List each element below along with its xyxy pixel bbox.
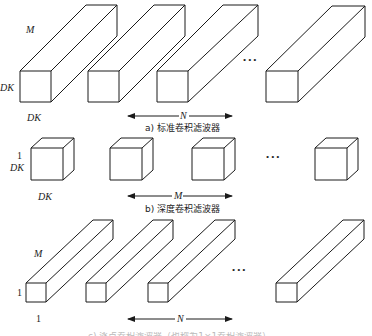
panel-a-width-label: DK [27, 113, 41, 123]
panel-a-height-label: DK [0, 83, 14, 93]
panel-b-filter-1 [31, 138, 74, 180]
panel-a-filter-3 [157, 5, 258, 102]
panel-c-height-label: 1 [17, 288, 22, 298]
panel-b-ellipsis: ••• [266, 153, 281, 162]
panel-b-filter-last [315, 138, 358, 180]
panel-c-caption: c) 逐点卷积滤波器（也称为1×1卷积滤波器） [88, 332, 271, 336]
panel-b-count-label: M [174, 191, 182, 201]
panel-c-count-label: N [177, 314, 184, 324]
panel-b-filter-3 [192, 138, 235, 180]
panel-b-width-label: DK [38, 192, 52, 202]
panel-b-depth-label: 1 [17, 151, 22, 161]
panel-c-ellipsis: ••• [232, 266, 247, 275]
panel-c-filter-last [276, 220, 364, 302]
panel-b-height-label: DK [10, 163, 24, 173]
panel-c-filter-3 [148, 220, 235, 302]
panel-a-caption: a) 标准卷积滤波器 [145, 124, 220, 133]
panel-a-ellipsis: ••• [243, 56, 258, 65]
panel-b-caption: b) 深度卷积滤波器 [145, 205, 220, 214]
panel-c-depth-label: M [34, 249, 42, 259]
panel-a-filter-last [266, 6, 365, 102]
panel-b-filter-2 [110, 138, 153, 180]
panel-a-count-label: N [180, 111, 187, 121]
filter-diagram [0, 0, 372, 336]
panel-c-width-label: 1 [36, 314, 41, 324]
panel-a-depth-label: M [26, 25, 34, 35]
